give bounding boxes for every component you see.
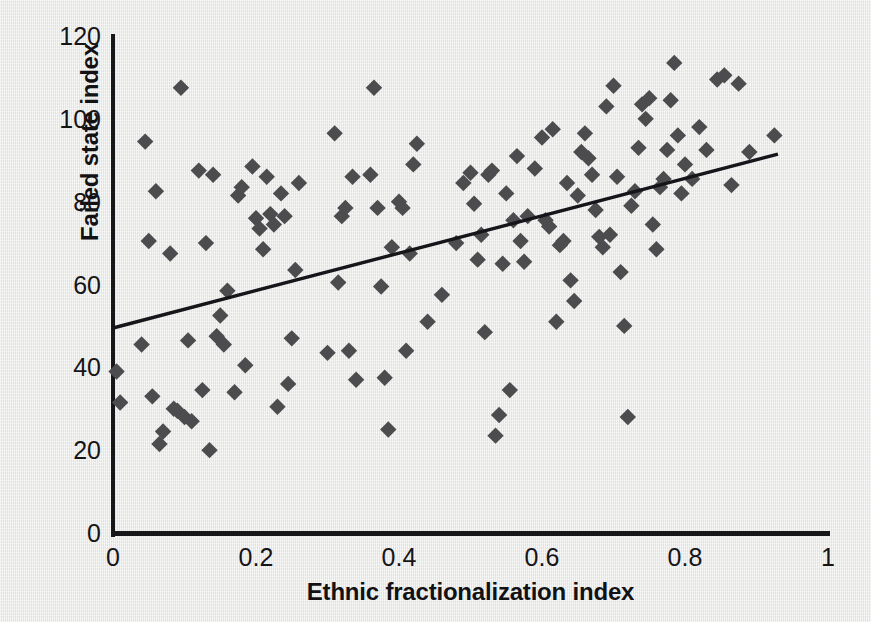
scatter-point (255, 241, 271, 257)
scatter-point (562, 272, 578, 288)
scatter-point (155, 423, 171, 439)
plot-area (113, 36, 828, 533)
scatter-point (137, 133, 153, 149)
x-tick-label: 0.8 (668, 543, 703, 572)
scatter-point (598, 98, 614, 114)
scatter-point (269, 398, 285, 414)
figure-canvas: Failed state index 020406080100120 00.20… (0, 0, 871, 622)
scatter-point (173, 80, 189, 96)
scatter-point (369, 200, 385, 216)
scatter-point (398, 343, 414, 359)
scatter-point (330, 274, 346, 290)
scatter-point (141, 233, 157, 249)
scatter-point (280, 376, 296, 392)
scatter-point (570, 187, 586, 203)
scatter-point (645, 216, 661, 232)
y-tick-label: 80 (73, 187, 101, 216)
x-tick-label: 0 (106, 543, 120, 572)
scatter-point (673, 185, 689, 201)
scatter-point (144, 388, 160, 404)
scatter-point (623, 198, 639, 214)
scatter-point (284, 330, 300, 346)
scatter-point (616, 318, 632, 334)
scatter-point (730, 75, 746, 91)
scatter-point (237, 357, 253, 373)
scatter-point (341, 343, 357, 359)
scatter-point (559, 175, 575, 191)
scatter-point (191, 162, 207, 178)
scatter-point (326, 125, 342, 141)
scatter-point (502, 382, 518, 398)
scatter-point (620, 409, 636, 425)
scatter-point (466, 196, 482, 212)
y-tick-label: 20 (73, 436, 101, 465)
y-tick-label: 40 (73, 353, 101, 382)
scatter-point (373, 278, 389, 294)
scatter-point (612, 264, 628, 280)
scatter-point (212, 307, 228, 323)
scatter-point (198, 235, 214, 251)
scatter-point (205, 167, 221, 183)
scatter-point (512, 233, 528, 249)
scatter-point (344, 169, 360, 185)
scatter-point (677, 156, 693, 172)
y-tick-label: 60 (73, 270, 101, 299)
scatter-point (723, 177, 739, 193)
scatter-point (419, 314, 435, 330)
scatter-point (405, 156, 421, 172)
scatter-point (691, 119, 707, 135)
x-tick-label: 0.6 (525, 543, 560, 572)
y-tick-label: 100 (59, 104, 101, 133)
scatter-point (548, 314, 564, 330)
scatter-point (630, 140, 646, 156)
scatter-point (698, 142, 714, 158)
scatter-point (527, 160, 543, 176)
scatter-point (180, 332, 196, 348)
scatter-point (133, 336, 149, 352)
scatter-point (577, 125, 593, 141)
scatter-point (377, 369, 393, 385)
scatter-point (766, 127, 782, 143)
scatter-point (637, 111, 653, 127)
scatter-point (348, 372, 364, 388)
scatter-point (477, 324, 493, 340)
scatter-point (491, 407, 507, 423)
scatter-plot-svg (113, 36, 828, 533)
scatter-point (648, 241, 664, 257)
scatter-point (487, 427, 503, 443)
x-axis-title: Ethnic fractionalization index (113, 578, 828, 606)
scatter-point (566, 293, 582, 309)
scatter-point (151, 436, 167, 452)
scatter-point (516, 254, 532, 270)
scatter-markers (108, 55, 782, 459)
scatter-point (112, 394, 128, 410)
scatter-point (259, 169, 275, 185)
scatter-point (244, 158, 260, 174)
scatter-point (666, 55, 682, 71)
scatter-point (469, 251, 485, 267)
scatter-point (362, 167, 378, 183)
scatter-point (409, 135, 425, 151)
scatter-point (670, 127, 686, 143)
scatter-point (663, 92, 679, 108)
scatter-point (498, 185, 514, 201)
scatter-point (380, 421, 396, 437)
scatter-point (659, 142, 675, 158)
scatter-point (273, 185, 289, 201)
y-tick-label: 120 (59, 22, 101, 51)
scatter-point (434, 287, 450, 303)
scatter-point (226, 384, 242, 400)
scatter-point (319, 345, 335, 361)
scatter-point (609, 169, 625, 185)
scatter-point (194, 382, 210, 398)
scatter-point (494, 256, 510, 272)
y-tick-label: 0 (87, 519, 101, 548)
scatter-point (291, 175, 307, 191)
scatter-point (201, 442, 217, 458)
scatter-point (162, 245, 178, 261)
scatter-point (605, 78, 621, 94)
x-tick-label: 0.4 (382, 543, 417, 572)
scatter-point (741, 144, 757, 160)
x-tick-label: 0.2 (239, 543, 274, 572)
x-tick-label: 1 (821, 543, 835, 572)
